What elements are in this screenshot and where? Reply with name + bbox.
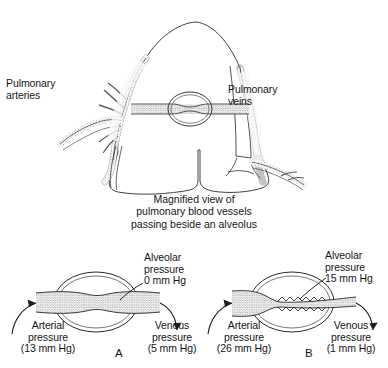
panel-a-alveolar-pressure-label: Alveolar pressure 0 mm Hg (144, 252, 186, 287)
pulmonary-veins-label: Pulmonary veins (228, 84, 277, 107)
panel-b-arterial-pressure-label: Arterial pressure (26 mm Hg) (198, 320, 290, 355)
pulmonary-pressure-figure: Pulmonary arteries Pulmonary veins Magni… (0, 0, 388, 368)
panel-a-letter: A (115, 347, 123, 359)
pulmonary-arteries-label: Pulmonary arteries (6, 78, 55, 101)
panel-a-arterial-pressure-label: Arterial pressure (13 mm Hg) (4, 320, 92, 355)
figure-caption: Magnified view of pulmonary blood vessel… (0, 193, 388, 230)
panel-b-alveolar-pressure-label: Alveolar pressure 15 mm Hg (325, 250, 373, 285)
panel-b-venous-pressure-label: Venous pressure (1 mm Hg) (315, 320, 387, 355)
panel-b-letter: B (305, 347, 313, 359)
diagram-canvas (0, 0, 388, 368)
